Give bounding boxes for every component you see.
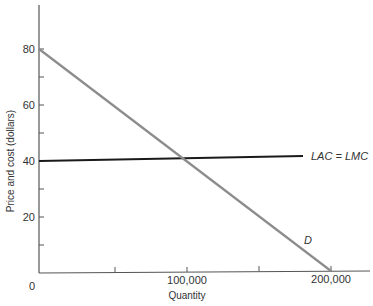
y-tick-60: 60 bbox=[23, 99, 35, 111]
x-tick-100000: 100,000 bbox=[167, 274, 207, 286]
demand-label: D bbox=[304, 234, 312, 246]
y-tick-20: 20 bbox=[23, 211, 35, 223]
y-ticks bbox=[39, 49, 44, 245]
x-tick-200000: 200,000 bbox=[311, 273, 351, 285]
y-tick-40: 40 bbox=[23, 155, 35, 167]
x-axis-title: Quantity bbox=[168, 290, 205, 301]
origin-label: 0 bbox=[29, 280, 35, 292]
lac-lmc-label: LAC = LMC bbox=[311, 150, 368, 162]
chart: 80 60 40 20 0 100,000 200,000 Quantity P… bbox=[0, 0, 373, 306]
y-axis-title: Price and cost (dollars) bbox=[5, 110, 16, 212]
y-tick-80: 80 bbox=[23, 43, 35, 55]
lac-lmc-line bbox=[39, 156, 303, 161]
